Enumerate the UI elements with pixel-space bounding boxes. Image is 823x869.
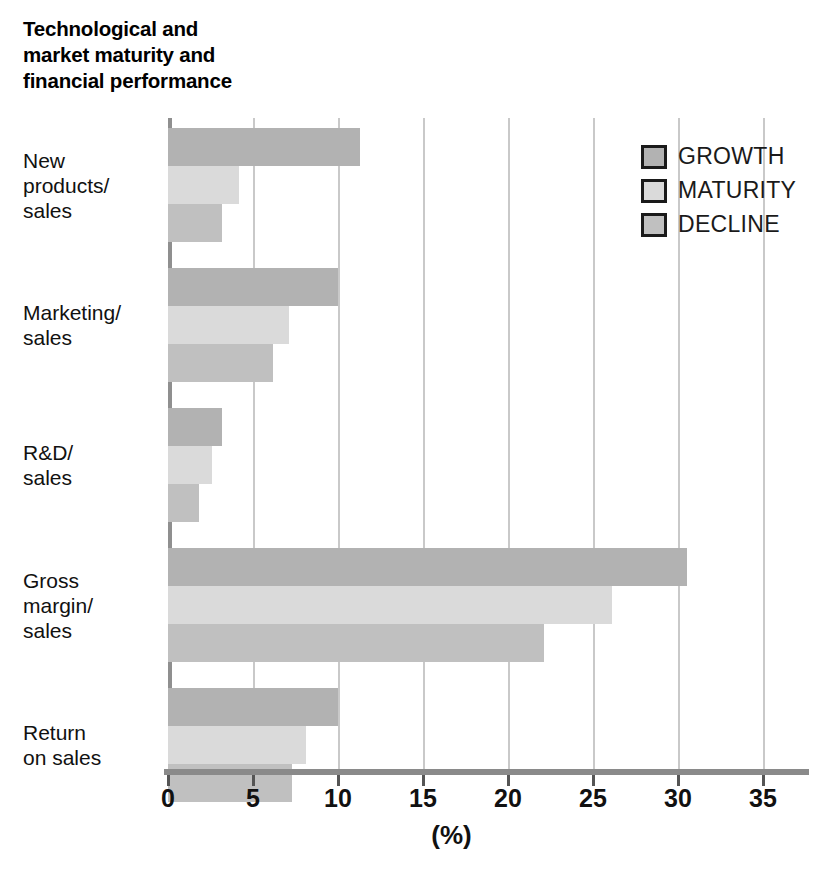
category-label-0: New products/ sales bbox=[23, 148, 163, 223]
bar-decline-3 bbox=[168, 624, 544, 662]
x-tick-label-15: 15 bbox=[393, 784, 453, 813]
category-label-2: R&D/ sales bbox=[23, 440, 163, 490]
bar-growth-1 bbox=[168, 268, 338, 306]
gridline-25 bbox=[593, 118, 595, 771]
x-tick-label-25: 25 bbox=[563, 784, 623, 813]
legend-label-maturity: MATURITY bbox=[678, 177, 796, 204]
legend-swatch-growth bbox=[641, 145, 667, 169]
legend-label-growth: GROWTH bbox=[678, 143, 785, 170]
legend-label-decline: DECLINE bbox=[678, 211, 780, 238]
bar-decline-1 bbox=[168, 344, 273, 382]
legend-item-growth[interactable]: GROWTH bbox=[641, 141, 796, 172]
category-label-3: Gross margin/ sales bbox=[23, 568, 163, 643]
page-title: Technological and market maturity and fi… bbox=[23, 16, 443, 94]
bar-growth-2 bbox=[168, 408, 222, 446]
legend-item-decline[interactable]: DECLINE bbox=[641, 209, 796, 240]
bar-growth-3 bbox=[168, 548, 687, 586]
bar-decline-2 bbox=[168, 484, 199, 522]
x-tick-label-0: 0 bbox=[138, 784, 198, 813]
bar-growth-4 bbox=[168, 688, 338, 726]
bar-maturity-2 bbox=[168, 446, 212, 484]
x-tick-label-10: 10 bbox=[308, 784, 368, 813]
category-label-4: Return on sales bbox=[23, 720, 163, 770]
bar-maturity-1 bbox=[168, 306, 289, 344]
legend-item-maturity[interactable]: MATURITY bbox=[641, 175, 796, 206]
bar-growth-0 bbox=[168, 128, 360, 166]
gridline-20 bbox=[508, 118, 510, 771]
gridline-5 bbox=[253, 118, 255, 771]
bar-decline-0 bbox=[168, 204, 222, 242]
x-tick-label-20: 20 bbox=[478, 784, 538, 813]
bar-maturity-4 bbox=[168, 726, 306, 764]
gridline-10 bbox=[338, 118, 340, 771]
x-tick-label-35: 35 bbox=[733, 784, 793, 813]
x-tick-label-5: 5 bbox=[223, 784, 283, 813]
bar-maturity-3 bbox=[168, 586, 612, 624]
category-label-1: Marketing/ sales bbox=[23, 300, 163, 350]
legend: GROWTHMATURITYDECLINE bbox=[641, 141, 796, 243]
x-tick-label-30: 30 bbox=[648, 784, 708, 813]
gridline-15 bbox=[423, 118, 425, 771]
legend-swatch-maturity bbox=[641, 179, 667, 203]
legend-swatch-decline bbox=[641, 213, 667, 237]
bar-maturity-0 bbox=[168, 166, 239, 204]
x-axis-line bbox=[164, 769, 809, 775]
x-axis-title: (%) bbox=[0, 820, 823, 851]
